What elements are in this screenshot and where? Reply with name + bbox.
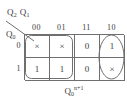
kmap-cell-r0c1: × xyxy=(50,35,75,58)
output-function-sup: n+1 xyxy=(74,85,83,91)
karnaugh-map-figure: Q2 Q1 Q0 00 01 11 10 0 1 × × 0 1 1 1 0 ×… xyxy=(0,0,127,101)
kmap-cell-r1c3: × xyxy=(100,58,125,81)
column-header-row: 00 01 11 10 xyxy=(24,22,124,33)
column-header-11: 11 xyxy=(74,22,99,33)
row-header-column: 0 1 xyxy=(13,34,24,80)
kmap-cell-r0c2: 0 xyxy=(75,35,100,58)
column-header-00: 00 xyxy=(24,22,49,33)
column-variable-label: Q2 Q1 xyxy=(7,7,30,20)
column-variable-sub-a: 2 xyxy=(14,12,17,18)
output-function-label: Q0n+1 xyxy=(24,82,124,100)
column-header-01: 01 xyxy=(49,22,74,33)
kmap-cell-r1c1: 1 xyxy=(50,58,75,81)
output-function-sub: 0 xyxy=(71,91,74,97)
kmap-cell-r0c3: 1 xyxy=(100,35,125,58)
row-header-0: 0 xyxy=(13,34,24,57)
row-header-1: 1 xyxy=(13,57,24,80)
column-header-10: 10 xyxy=(99,22,124,33)
kmap-cell-r1c0: 1 xyxy=(25,58,50,81)
column-variable-base-b: Q xyxy=(20,7,27,17)
kmap-cell-r1c2: 0 xyxy=(75,58,100,81)
column-variable-base-a: Q xyxy=(7,7,14,17)
kmap-cell-r0c0: × xyxy=(25,35,50,58)
column-variable-sub-b: 1 xyxy=(27,12,30,18)
kmap-grid: × × 0 1 1 1 0 × xyxy=(24,34,124,80)
